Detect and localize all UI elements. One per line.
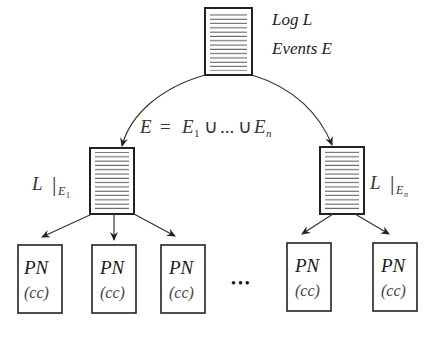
svg-text:(cc): (cc) xyxy=(24,284,49,302)
svg-text:L: L xyxy=(31,173,43,194)
svg-text:(cc): (cc) xyxy=(169,284,194,302)
svg-text:E: E xyxy=(253,116,266,137)
svg-text:PN: PN xyxy=(23,257,50,278)
svg-text:...: ... xyxy=(220,116,234,137)
decomposition-diagram: Log L Events E E = E 1 ∪ ... ∪ E n L | E… xyxy=(0,0,440,346)
svg-text:n: n xyxy=(404,190,408,199)
petri-net-model-2: PN (cc) xyxy=(92,245,136,313)
svg-text:L: L xyxy=(369,172,381,193)
svg-text:n: n xyxy=(266,127,272,139)
sublog-left-document-icon xyxy=(90,148,134,214)
petri-net-model-1: PN (cc) xyxy=(18,245,62,313)
svg-text:PN: PN xyxy=(380,255,407,276)
petri-net-model-3: PN (cc) xyxy=(161,245,205,313)
petri-net-model-5: PN (cc) xyxy=(373,243,417,311)
sublog-right-label: L | E n xyxy=(369,170,408,199)
arrow-left-to-model-1 xyxy=(42,214,92,237)
svg-text:(cc): (cc) xyxy=(295,282,320,300)
svg-text:E: E xyxy=(139,116,152,137)
svg-text:PN: PN xyxy=(168,257,195,278)
svg-text:(cc): (cc) xyxy=(381,282,406,300)
svg-text:(cc): (cc) xyxy=(100,284,125,302)
sublog-right-document-icon xyxy=(320,147,364,214)
svg-text:|: | xyxy=(52,171,56,196)
root-events-label: Events E xyxy=(271,39,333,58)
svg-text:∪: ∪ xyxy=(204,116,218,137)
root-log-label: Log L xyxy=(271,10,312,29)
svg-text:E: E xyxy=(57,184,66,198)
svg-text:∪: ∪ xyxy=(238,116,252,137)
svg-text:=: = xyxy=(160,116,171,137)
svg-text:PN: PN xyxy=(294,255,321,276)
ellipsis: ••• xyxy=(231,276,252,291)
arrow-right-to-model-4 xyxy=(302,214,333,234)
svg-text:1: 1 xyxy=(66,191,70,200)
svg-text:|: | xyxy=(390,170,394,195)
arrow-right-to-model-5 xyxy=(355,214,389,234)
petri-net-model-4: PN (cc) xyxy=(287,243,331,311)
event-partition-formula: E = E 1 ∪ ... ∪ E n xyxy=(139,116,272,139)
svg-text:1: 1 xyxy=(194,127,200,139)
arrow-left-to-model-3 xyxy=(134,214,175,236)
svg-text:E: E xyxy=(395,183,404,197)
sublog-left-label: L | E 1 xyxy=(31,171,70,200)
svg-text:PN: PN xyxy=(99,257,126,278)
root-log-document-icon xyxy=(205,8,252,75)
svg-text:E: E xyxy=(181,116,194,137)
